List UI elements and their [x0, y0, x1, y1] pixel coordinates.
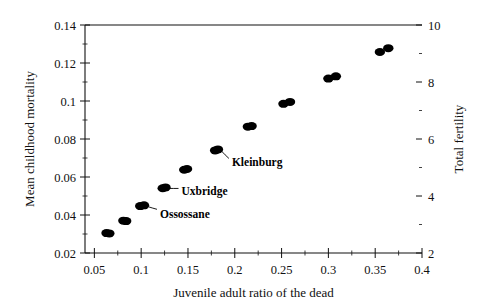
y-tick-label: 0.02 [54, 247, 76, 261]
data-point [121, 217, 131, 225]
y-axis-title: Mean childhood mortality [22, 71, 37, 207]
data-point [104, 229, 114, 237]
data-point [285, 98, 295, 106]
y-tick-label: 0.1 [60, 95, 76, 109]
x-tick-label: 0.35 [364, 263, 386, 277]
y-tick-label: 0.06 [54, 171, 76, 185]
y2-axis-title: Total fertility [451, 104, 466, 173]
annotation-label: Ossossane [160, 208, 210, 220]
y2-tick-label: 8 [428, 76, 434, 90]
data-point [139, 201, 149, 209]
annotation-leader-line [221, 150, 229, 158]
annotation-label: Uxbridge [182, 185, 228, 198]
y2-tick-label: 2 [428, 247, 434, 261]
data-point [160, 183, 170, 191]
x-tick-label: 0.1 [133, 263, 149, 277]
annotation-leader-line [147, 206, 157, 209]
y-tick-label: 0.14 [54, 19, 77, 33]
y2-tick-label: 4 [428, 190, 435, 204]
y2-tick-label: 6 [428, 133, 434, 147]
y2-tick-label: 10 [428, 19, 441, 33]
figure: 0.020.040.060.080.10.120.142468100.050.1… [0, 0, 486, 307]
data-point [383, 44, 393, 52]
data-point [213, 145, 223, 153]
x-tick-label: 0.15 [177, 263, 199, 277]
data-point [182, 165, 192, 173]
x-tick-label: 0.05 [83, 263, 105, 277]
x-tick-label: 0.4 [414, 263, 430, 277]
y-tick-label: 0.08 [54, 133, 76, 147]
data-point [246, 122, 256, 130]
annotation-label: Kleinburg [232, 156, 283, 169]
x-tick-label: 0.25 [271, 263, 293, 277]
y-tick-label: 0.04 [54, 209, 77, 223]
x-axis-title: Juvenile adult ratio of the dead [173, 285, 334, 300]
x-tick-label: 0.2 [227, 263, 243, 277]
data-point [331, 72, 341, 80]
x-tick-label: 0.3 [321, 263, 337, 277]
scatter-plot: 0.020.040.060.080.10.120.142468100.050.1… [0, 0, 486, 307]
y-tick-label: 0.12 [54, 57, 76, 71]
